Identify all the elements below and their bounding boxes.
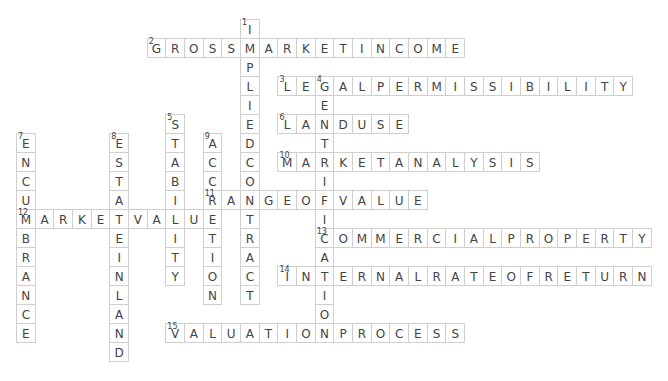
crossword-cell[interactable]: M [427,76,447,96]
crossword-cell[interactable]: C [389,323,409,343]
crossword-cell[interactable]: A [427,152,447,172]
crossword-cell[interactable]: C [240,152,260,172]
crossword-cell[interactable]: S [520,152,540,172]
crossword-cell[interactable]: R [595,228,615,248]
crossword-cell[interactable]: Y [632,228,652,248]
crossword-cell[interactable]: D [109,342,129,362]
crossword-cell[interactable]: B [520,76,540,96]
crossword-cell[interactable]: T [613,228,633,248]
crossword-cell[interactable]: O [315,304,335,324]
crossword-cell[interactable]: E [16,323,36,343]
crossword-cell[interactable]: A [352,190,372,210]
crossword-cell[interactable]: A [165,152,185,172]
crossword-cell[interactable]: T [333,38,353,58]
crossword-cell[interactable]: I [576,76,596,96]
crossword-cell[interactable]: A [147,209,167,229]
crossword-cell[interactable]: E [483,266,503,286]
crossword-cell[interactable]: E [557,266,577,286]
crossword-cell[interactable]: R [240,228,260,248]
crossword-cell[interactable]: T [240,209,260,229]
crossword-cell[interactable]: U [595,266,615,286]
crossword-cell[interactable]: M [240,38,260,58]
crossword-cell[interactable]: M [427,38,447,58]
crossword-cell[interactable]: I [203,247,223,267]
crossword-cell[interactable]: E [389,76,409,96]
crossword-cell[interactable]: L [109,285,129,305]
crossword-cell[interactable]: E [408,190,428,210]
crossword-cell[interactable]: R [613,266,633,286]
crossword-cell[interactable]: S [483,76,503,96]
crossword-cell[interactable]: I [240,95,260,115]
crossword-cell[interactable]: E [109,228,129,248]
crossword-cell[interactable]: E [445,38,465,58]
crossword-cell[interactable]: R [408,76,428,96]
crossword-cell[interactable]: D [333,114,353,134]
crossword-cell[interactable]: O [203,266,223,286]
crossword-cell[interactable]: E [333,266,353,286]
crossword-cell[interactable]: A [296,114,316,134]
crossword-cell[interactable]: T [259,323,279,343]
crossword-cell[interactable]: O [333,228,353,248]
crossword-cell[interactable]: I [315,209,335,229]
crossword-cell[interactable]: E [352,152,372,172]
crossword-cell[interactable]: C [427,228,447,248]
crossword-cell[interactable]: Y [613,76,633,96]
crossword-cell[interactable]: N [632,266,652,286]
crossword-cell[interactable]: N [109,323,129,343]
crossword-cell[interactable]: L [408,266,428,286]
crossword-cell[interactable]: E [408,323,428,343]
crossword-cell[interactable]: T [165,247,185,267]
crossword-cell[interactable]: N [315,114,335,134]
crossword-cell[interactable]: S [445,323,465,343]
crossword-cell[interactable]: I [501,76,521,96]
crossword-cell[interactable]: A [240,247,260,267]
crossword-cell[interactable]: M [371,228,391,248]
crossword-cell[interactable]: A [109,190,129,210]
crossword-cell[interactable]: A [221,190,241,210]
crossword-cell[interactable]: F [315,190,335,210]
crossword-cell[interactable]: Y [165,266,185,286]
crossword-cell[interactable]: O [408,38,428,58]
crossword-cell[interactable]: T [315,133,335,153]
crossword-cell[interactable]: C [203,171,223,191]
crossword-cell[interactable]: R [165,38,185,58]
crossword-cell[interactable]: L [371,190,391,210]
crossword-cell[interactable]: S5 [165,114,185,134]
crossword-cell[interactable]: L [483,228,503,248]
crossword-cell[interactable]: I [165,228,185,248]
crossword-cell[interactable]: C [240,266,260,286]
crossword-cell[interactable]: F [520,266,540,286]
crossword-cell[interactable]: A [184,323,204,343]
crossword-cell[interactable]: K [333,152,353,172]
crossword-cell[interactable]: C [203,152,223,172]
crossword-cell[interactable]: I14 [277,266,297,286]
crossword-cell[interactable]: O [296,190,316,210]
crossword-cell[interactable]: N [240,190,260,210]
crossword-cell[interactable]: L6 [277,114,297,134]
crossword-cell[interactable]: L [557,76,577,96]
crossword-cell[interactable]: B [165,171,185,191]
crossword-cell[interactable]: L [203,323,223,343]
crossword-cell[interactable]: E [389,114,409,134]
crossword-cell[interactable]: O [184,38,204,58]
crossword-cell[interactable]: G [259,190,279,210]
crossword-cell[interactable]: A [389,152,409,172]
crossword-cell[interactable]: N [371,266,391,286]
crossword-cell[interactable]: V [333,190,353,210]
crossword-cell[interactable]: N [109,266,129,286]
crossword-cell[interactable]: A [35,209,55,229]
crossword-cell[interactable]: A [333,76,353,96]
crossword-cell[interactable]: C13 [315,228,335,248]
crossword-cell[interactable]: R [352,266,372,286]
crossword-cell[interactable]: I1 [240,19,260,39]
crossword-cell[interactable]: M10 [277,152,297,172]
crossword-cell[interactable]: T [315,266,335,286]
crossword-cell[interactable]: P [240,57,260,77]
crossword-cell[interactable]: E [389,228,409,248]
crossword-cell[interactable]: A [315,247,335,267]
crossword-cell[interactable]: T [109,209,129,229]
crossword-cell[interactable]: V [128,209,148,229]
crossword-cell[interactable]: N [203,285,223,305]
crossword-cell[interactable]: O [296,323,316,343]
crossword-cell[interactable]: L [352,76,372,96]
